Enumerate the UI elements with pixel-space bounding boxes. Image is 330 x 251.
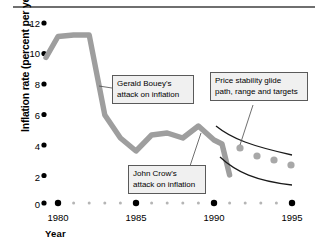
annotation-bouey: Gerald Bouey's attack on inflation (112, 75, 194, 104)
annotation-glide-path: Price stability glide path, range and ta… (210, 72, 308, 101)
target-dot-1993 (253, 152, 260, 159)
annotation-crow: John Crow's attack on inflation (128, 165, 206, 194)
leader-line-crow (190, 133, 201, 166)
target-dot-1992 (236, 144, 243, 151)
chart-figure: Inflation rate (percent per year) 12 10 … (0, 0, 330, 251)
x-axis-minor-tick-dots (72, 202, 278, 205)
target-dot-1994 (270, 156, 277, 163)
inflation-line (46, 35, 230, 175)
leader-line-glide (240, 105, 253, 145)
target-dot-1995 (287, 161, 294, 168)
glide-path-upper-band (216, 126, 292, 155)
x-axis-major-tick-dots (55, 200, 295, 206)
plot-area (0, 0, 330, 251)
y-axis-tick-dots (41, 20, 46, 205)
